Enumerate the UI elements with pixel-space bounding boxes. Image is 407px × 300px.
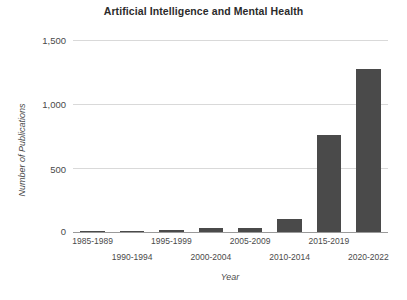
x-axis-title: Year bbox=[60, 272, 400, 282]
x-tick-label-1990-1994: 1990-1994 bbox=[112, 252, 153, 262]
x-tick-label-1995-1999: 1995-1999 bbox=[151, 236, 192, 246]
bars-layer bbox=[73, 40, 388, 232]
bar-2010-2014 bbox=[277, 219, 301, 232]
x-tick-label-2000-2004: 2000-2004 bbox=[190, 252, 231, 262]
bar-2020-2022 bbox=[356, 69, 380, 232]
x-tick-label-2010-2014: 2010-2014 bbox=[269, 252, 310, 262]
bar-chart-figure: Artificial Intelligence and Mental Healt… bbox=[0, 0, 407, 300]
bar-2015-2019 bbox=[317, 135, 341, 232]
y-tick-label-0: 0 bbox=[18, 226, 66, 237]
x-axis-line bbox=[73, 232, 388, 233]
x-tick-label-1985-1989: 1985-1989 bbox=[72, 236, 113, 246]
y-tick-label-500: 500 bbox=[18, 164, 66, 175]
chart-title: Artificial Intelligence and Mental Healt… bbox=[0, 5, 407, 17]
y-tick-label-1500: 1,500 bbox=[18, 35, 66, 46]
y-tick-label-1000: 1,000 bbox=[18, 99, 66, 110]
x-tick-label-2005-2009: 2005-2009 bbox=[230, 236, 271, 246]
x-tick-label-2015-2019: 2015-2019 bbox=[309, 236, 350, 246]
y-axis-title: Number of Publications bbox=[17, 95, 27, 205]
x-tick-label-2020-2022: 2020-2022 bbox=[348, 252, 389, 262]
